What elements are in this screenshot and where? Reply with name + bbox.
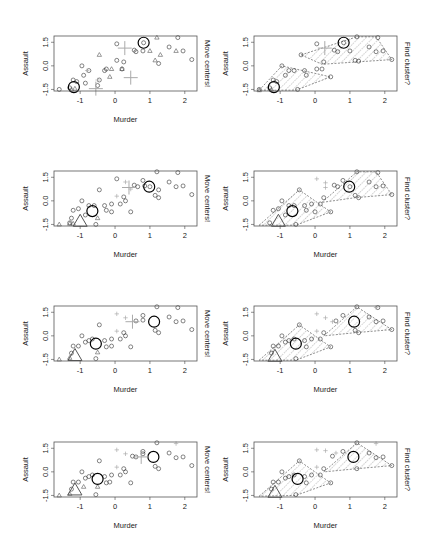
data-point-circle	[124, 334, 128, 338]
x-tick-label: -1	[277, 231, 284, 240]
data-point-circle	[167, 180, 171, 184]
y-tick-label: 0.0	[241, 61, 250, 71]
data-point-circle	[322, 467, 326, 471]
data-point-circle	[118, 202, 122, 206]
x-tick-label: 1	[348, 366, 352, 375]
x-axis-label: Murder	[114, 521, 138, 530]
data-point-plus	[315, 329, 319, 333]
data-point-circle	[76, 344, 80, 348]
scatter-panel-row4-left: -1012-1.50.01.5MurderAssaultMove centers…	[21, 441, 212, 530]
x-tick-label: 1	[148, 366, 152, 375]
data-point-circle	[69, 216, 73, 220]
x-tick-label: 1	[348, 231, 352, 240]
data-point-circle	[142, 41, 146, 45]
step-side-label: Move centers!	[203, 446, 212, 493]
y-tick-label: -1.5	[41, 489, 50, 502]
data-point-plus	[315, 465, 319, 469]
data-point-circle	[280, 470, 284, 474]
data-point-circle	[103, 339, 107, 343]
data-point-circle	[322, 196, 326, 200]
data-point-triangle	[81, 484, 85, 488]
x-tick-label: 2	[383, 502, 387, 511]
data-point-triangle	[95, 484, 99, 488]
data-point-plus	[95, 78, 99, 82]
x-tick-label: 1	[148, 96, 152, 105]
data-point-circle	[118, 473, 122, 477]
y-axis-label: Assault	[221, 50, 230, 76]
x-tick-label: 0	[113, 231, 117, 240]
x-tick-label: -1	[77, 231, 84, 240]
x-tick-label: 1	[148, 502, 152, 511]
data-point-plus	[323, 181, 327, 185]
scatter-panel-row1-left: -1012-1.50.01.5MurderAssaultMove centers…	[21, 35, 212, 124]
data-point-circle	[124, 470, 128, 474]
y-tick-label: 0.0	[41, 467, 50, 477]
data-point-circle	[104, 208, 108, 212]
x-tick-label: 2	[383, 231, 387, 240]
data-point-circle	[315, 42, 319, 46]
step-side-label: Find cluster?	[403, 448, 412, 491]
data-point-circle	[341, 178, 345, 182]
data-point-circle	[155, 170, 159, 174]
data-point-circle	[320, 67, 324, 71]
cluster-center-triangle	[68, 483, 82, 495]
plot-box	[54, 171, 197, 226]
data-point-circle	[167, 315, 171, 319]
data-point-circle	[334, 319, 338, 323]
y-tick-label: 1.5	[241, 37, 250, 47]
data-point-circle	[129, 210, 133, 214]
data-point-circle	[174, 185, 178, 189]
y-tick-label: 0.0	[41, 196, 50, 206]
data-point-triangle	[109, 67, 113, 71]
data-point-plus	[123, 180, 127, 184]
cluster-center-plus	[134, 450, 148, 464]
x-tick-label: -1	[277, 96, 284, 105]
data-point-circle	[141, 318, 145, 322]
data-point-circle	[80, 64, 84, 68]
x-tick-label: 0	[313, 231, 317, 240]
y-tick-label: 1.5	[41, 307, 50, 317]
data-point-circle	[157, 467, 161, 471]
y-axis-label: Assault	[21, 456, 30, 482]
data-point-circle	[341, 449, 345, 453]
data-point-circle	[80, 199, 84, 203]
cluster-hull	[301, 37, 392, 65]
y-tick-label: 0.0	[41, 331, 50, 341]
data-point-circle	[280, 334, 284, 338]
y-axis-label: Assault	[221, 320, 230, 346]
data-point-circle	[115, 42, 119, 46]
data-point-circle	[122, 195, 126, 199]
data-point-circle	[71, 344, 75, 348]
x-tick-label: 0	[313, 96, 317, 105]
plot-box	[54, 36, 197, 91]
data-point-circle	[271, 208, 275, 212]
x-tick-label: 2	[383, 96, 387, 105]
data-point-triangle	[57, 357, 61, 361]
y-tick-label: -1.5	[241, 353, 250, 366]
data-point-circle	[341, 313, 345, 317]
data-point-circle	[155, 305, 159, 309]
data-point-circle	[141, 313, 145, 317]
scatter-panel-row2-left: -1012-1.50.01.5MurderAssaultMove centers…	[21, 170, 212, 259]
data-point-plus	[115, 448, 119, 452]
data-point-plus	[123, 452, 127, 456]
data-point-triangle	[57, 493, 61, 497]
data-point-plus	[115, 465, 119, 469]
data-point-circle	[110, 202, 114, 206]
data-point-circle	[83, 81, 87, 85]
data-point-plus	[315, 448, 319, 452]
data-point-plus	[323, 185, 327, 189]
data-point-circle	[122, 60, 126, 64]
cluster-center-plus	[124, 71, 138, 85]
data-point-plus	[115, 329, 119, 333]
data-point-triangle	[57, 222, 61, 226]
y-tick-label: 1.5	[41, 443, 50, 453]
data-point-circle	[190, 464, 194, 468]
scatter-panel-row2-right: -1012-1.50.01.5MurderAssaultFind cluster…	[221, 170, 412, 259]
x-tick-label: -1	[277, 502, 284, 511]
y-tick-label: 1.5	[41, 37, 50, 47]
scatter-panel-row1-right: -1012-1.50.01.5AssaultFind cluster?	[221, 35, 412, 105]
data-point-circle	[190, 58, 194, 62]
y-axis-label: Assault	[221, 185, 230, 211]
cluster-center-circle	[87, 206, 98, 217]
